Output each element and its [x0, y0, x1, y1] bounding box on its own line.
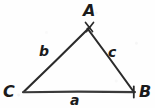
vertex-label-b: B: [139, 84, 151, 100]
side-label-c: c: [108, 45, 116, 59]
triangle-figure: A B C a b c: [0, 0, 155, 108]
side-label-b: b: [39, 44, 49, 58]
side-b-line: [24, 28, 90, 93]
side-label-a: a: [70, 93, 79, 107]
side-c-line: [88, 29, 134, 92]
vertex-label-c: C: [3, 84, 15, 100]
vertex-label-a: A: [83, 3, 95, 19]
